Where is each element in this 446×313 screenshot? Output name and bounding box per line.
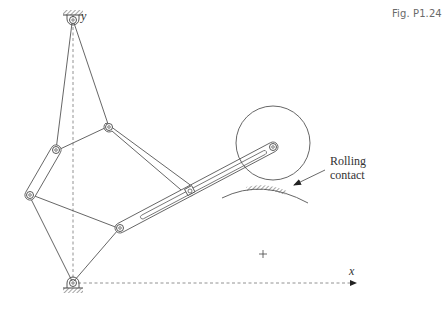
y-axis [70,15,76,283]
joint-wheel-center [270,144,277,151]
link-D-to-bottom [74,230,118,281]
rolling-contact-arrow [294,170,325,185]
joint-A [106,124,113,131]
link-C-to-D [32,195,118,228]
x-axis [78,280,357,286]
joint-D [117,225,124,232]
rolling-contact-line1: Rolling [330,154,366,168]
bottom-ground-support [63,277,83,293]
rolling-contact-line2: contact [330,168,366,182]
link-top-to-B [56,23,72,150]
link-C-to-bottom [30,197,72,281]
link-top-to-A [74,23,109,127]
bar-link-A-slider [104,123,195,196]
joint-B [53,147,60,154]
mechanism-diagram [0,0,446,313]
joint-C [27,192,34,199]
center-mark-icon [259,250,267,258]
y-axis-label: y [81,9,86,24]
link-B-to-A [58,127,107,150]
top-ground-support [63,10,83,25]
rolling-contact-label: Rolling contact [330,154,366,182]
links [30,23,118,281]
x-axis-label: x [349,264,354,279]
figure-label: Fig. P1.24 [392,8,442,19]
x-axis-arrow-icon [350,280,357,286]
curved-ground-surface [222,185,308,203]
